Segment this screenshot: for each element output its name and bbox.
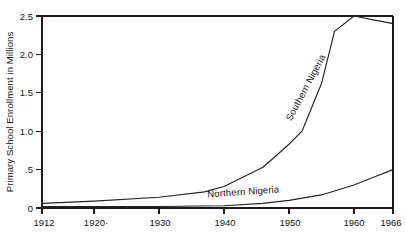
chart-background [0,0,406,236]
chart-container: 0 .5 1.0 1.5 2.0 2.5 1912 1920· 1930 194… [0,0,406,236]
y-tick-label: .5 [25,164,33,175]
y-tick-label: 2.5 [20,11,33,22]
x-tick-labels: 1912 1920· 1930 1940 1950 1960 1966 [33,217,401,228]
x-tick-label: 1920· [84,217,108,228]
x-tick-label: 1940 [214,217,235,228]
y-tick-label: 2.0 [20,49,33,60]
x-tick-label: 1912 [33,217,54,228]
x-tick-label: 1930 [149,217,170,228]
x-tick-label: 1960 [343,217,364,228]
y-axis-title: Primary School Enrollment in Millions [4,32,15,193]
x-tick-label: 1966 [380,217,401,228]
y-tick-label: 0 [28,203,33,214]
x-tick-label: 1950 [279,217,300,228]
line-chart: 0 .5 1.0 1.5 2.0 2.5 1912 1920· 1930 194… [0,0,406,236]
y-tick-label: 1.5 [20,87,33,98]
y-tick-label: 1.0 [20,126,33,137]
